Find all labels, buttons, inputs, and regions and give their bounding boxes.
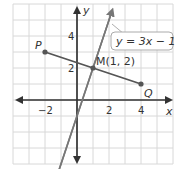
line-y-3x-1 bbox=[54, 10, 113, 169]
label-p: P bbox=[35, 39, 42, 52]
x-axis-label: x bbox=[165, 105, 173, 118]
x-tick-label: 2 bbox=[106, 105, 112, 116]
coordinate-plane: −22424xy PQM(1, 2)y = 3x − 1 bbox=[0, 0, 182, 169]
point-m bbox=[90, 65, 95, 70]
y-tick-label: 2 bbox=[68, 63, 74, 74]
label-midpoint: M(1, 2) bbox=[96, 55, 135, 68]
x-tick-label: −2 bbox=[38, 105, 53, 116]
y-tick-label: 4 bbox=[68, 31, 74, 42]
label-q: Q bbox=[144, 87, 153, 100]
grid bbox=[13, 4, 173, 164]
y-axis-label: y bbox=[82, 4, 90, 17]
x-tick-label: 4 bbox=[138, 105, 144, 116]
point-p bbox=[42, 49, 47, 54]
axes: −22424xy bbox=[17, 4, 173, 162]
point-q bbox=[138, 81, 143, 86]
equation-label: y = 3x − 1 bbox=[115, 35, 175, 48]
